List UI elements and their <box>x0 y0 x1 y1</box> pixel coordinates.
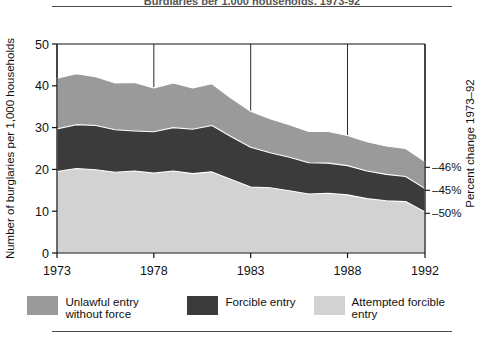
figure-container: Burglaries per 1,000 households, 1973-92… <box>0 0 483 342</box>
y-tick-label: 30 <box>35 121 49 135</box>
y-axis-left-title: Number of burglaries per 1,000 household… <box>4 38 16 259</box>
bottom-divider-rule <box>52 331 452 332</box>
y-tick-label: 20 <box>35 163 49 177</box>
y-tick-label: 40 <box>35 79 49 93</box>
y-axis-title-text: Number of burglaries per 1,000 household… <box>4 38 16 259</box>
area-series-layer <box>57 74 425 253</box>
y-axis-right-title-text: Percent change 1973–92 <box>464 79 476 208</box>
plot-area: 01020304050 19731978198319881992 –46%–45… <box>0 10 483 290</box>
x-tick-label: 1973 <box>43 264 71 278</box>
y-tick-label: 50 <box>35 38 49 52</box>
figure-title: Burglaries per 1,000 households, 1973-92 <box>52 0 452 5</box>
x-tick-label: 1978 <box>140 264 168 278</box>
y-tick-label: 10 <box>35 205 49 219</box>
legend-label-attempted-forcible-entry: Attempted forcible entry <box>352 296 456 321</box>
y-axis-right-title: Percent change 1973–92 <box>464 79 476 208</box>
chart-legend: Unlawful entry without forceForcible ent… <box>0 296 483 330</box>
stacked-area-chart: 01020304050 19731978198319881992 –46%–45… <box>0 10 483 290</box>
percent-change-labels: –46%–45%–50% <box>425 161 461 219</box>
y-tick-label: 0 <box>42 247 49 261</box>
legend-label-unlawful-entry-without-force: Unlawful entry without force <box>65 296 169 321</box>
percent-change-label: –45% <box>432 184 461 196</box>
y-axis-ticks: 01020304050 <box>35 38 57 261</box>
x-tick-label: 1992 <box>411 264 439 278</box>
x-tick-label: 1983 <box>237 264 265 278</box>
legend-item-unlawful-entry-without-force[interactable]: Unlawful entry without force <box>27 296 169 321</box>
legend-swatch-unlawful-entry-without-force <box>27 296 58 315</box>
x-tick-label: 1988 <box>334 264 362 278</box>
legend-swatch-forcible-entry <box>187 296 218 315</box>
legend-item-attempted-forcible-entry[interactable]: Attempted forcible entry <box>314 296 456 321</box>
x-axis-ticks: 19731978198319881992 <box>43 253 439 278</box>
legend-swatch-attempted-forcible-entry <box>314 296 345 315</box>
percent-change-label: –50% <box>432 207 461 219</box>
percent-change-label: –46% <box>432 161 461 173</box>
legend-item-forcible-entry[interactable]: Forcible entry <box>187 296 295 315</box>
legend-label-forcible-entry: Forcible entry <box>225 296 295 308</box>
top-divider-rule <box>52 6 452 7</box>
